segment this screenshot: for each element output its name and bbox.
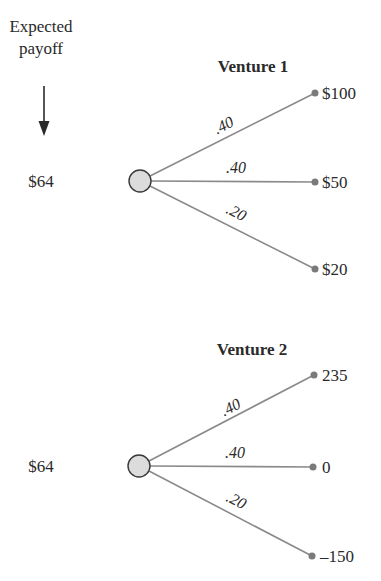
venture-1-branch-3 <box>150 186 315 269</box>
venture-1-prob-3: .20 <box>224 200 250 224</box>
venture-1-payoff-2: $50 <box>322 173 348 192</box>
venture-1-payoff-3: $20 <box>322 260 348 279</box>
venture-1-leaf-1 <box>312 90 319 97</box>
venture-2-branch-2 <box>150 466 313 467</box>
venture-1-payoff-1: $100 <box>322 84 356 103</box>
venture-2-payoff-1: 235 <box>322 366 348 385</box>
venture-2-title: Venture 2 <box>217 340 287 359</box>
down-arrow-icon <box>39 86 50 136</box>
venture-1-expected-payoff: $64 <box>28 172 54 191</box>
expected-payoff-label-line1: Expected <box>9 17 73 36</box>
venture-2-leaf-3 <box>309 553 316 560</box>
venture-2-payoff-3: –150 <box>319 547 354 566</box>
venture-1-leaf-2 <box>312 179 319 186</box>
expected-payoff-label-line2: payoff <box>19 39 63 58</box>
venture-1-prob-1: .40 <box>211 113 237 137</box>
venture-2-prob-3: .20 <box>224 488 250 512</box>
venture-1-tree: Venture 1 $64 .40 .40 .20 $100 $50 $20 <box>28 57 356 279</box>
venture-1-chance-node <box>129 170 151 192</box>
venture-2-leaf-1 <box>311 372 318 379</box>
venture-2-prob-1: .40 <box>218 395 244 419</box>
decision-tree-diagram: Expected payoff Venture 1 $64 .40 .40 .2… <box>0 0 381 581</box>
venture-2-leaf-2 <box>310 464 317 471</box>
venture-2-branch-3 <box>149 471 312 556</box>
venture-2-chance-node <box>128 455 150 477</box>
venture-2-tree: Venture 2 $64 .40 .40 .20 235 0 –150 <box>28 340 354 566</box>
venture-1-leaf-3 <box>312 266 319 273</box>
venture-2-payoff-2: 0 <box>322 458 331 477</box>
venture-1-branch-2 <box>151 181 315 182</box>
venture-2-prob-2: .40 <box>225 444 245 461</box>
venture-1-prob-2: .40 <box>226 159 246 176</box>
venture-1-title: Venture 1 <box>218 57 288 76</box>
venture-2-expected-payoff: $64 <box>28 457 54 476</box>
